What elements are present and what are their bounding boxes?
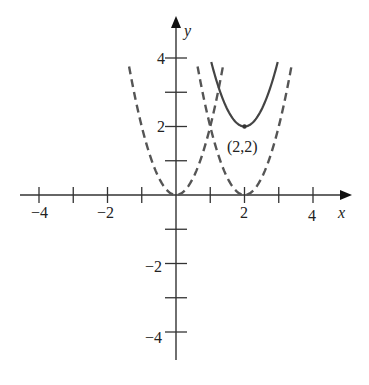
x-axis-arrow-icon [340, 190, 352, 200]
y-axis-label: y [182, 22, 192, 40]
curves [129, 62, 291, 195]
y-tick-label-neg2: −2 [145, 258, 162, 275]
x-tick-label-4: 4 [308, 207, 316, 224]
dashed-parabola-1 [198, 66, 292, 195]
x-tick-label-neg4: −4 [31, 204, 48, 221]
y-tick-label-2: 2 [157, 118, 165, 135]
y-tick-label-4: 4 [157, 50, 165, 67]
chart-canvas: x y (2,2) −4 −2 2 4 4 2 −2 −4 [0, 0, 369, 385]
vertex-label: (2,2) [227, 138, 258, 156]
y-tick-label-neg4: −4 [145, 329, 162, 346]
axes [20, 16, 352, 360]
x-tick-label-neg2: −2 [97, 204, 114, 221]
y-axis-arrow-icon [171, 16, 181, 28]
vertex-dot [242, 124, 246, 128]
x-axis-label: x [337, 204, 345, 221]
x-tick-label-2: 2 [240, 204, 248, 221]
